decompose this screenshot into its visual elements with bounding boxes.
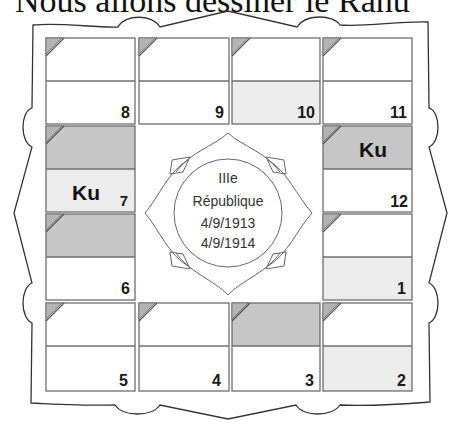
- planet-label: Ku: [359, 138, 387, 161]
- house-3: 3: [232, 303, 320, 391]
- house-number: 5: [119, 372, 128, 389]
- house-4-top: [139, 303, 229, 346]
- house-5: 5: [46, 303, 135, 391]
- center-line-1: IIIe: [218, 170, 238, 186]
- house-number: 9: [215, 104, 224, 121]
- house-number: 3: [305, 372, 314, 389]
- house-7: Ku 7: [46, 126, 135, 212]
- house-number: 10: [297, 104, 315, 121]
- house-7-top: [46, 126, 135, 169]
- house-number: 1: [397, 280, 406, 297]
- house-number: 7: [120, 192, 128, 209]
- house-11: 11: [323, 38, 412, 124]
- house-8: 8: [46, 38, 135, 124]
- horoscope-diagram: Nous allons dessiner le Rahu 8 9 10: [0, 0, 449, 431]
- center-line-3: 4/9/1913: [201, 215, 256, 231]
- page-title: Nous allons dessiner le Rahu: [15, 0, 410, 19]
- house-4: 4: [139, 303, 229, 391]
- house-11-top: [323, 38, 412, 81]
- house-9-top: [139, 38, 229, 81]
- center-line-4: 4/9/1914: [201, 235, 256, 251]
- house-1: 1: [323, 214, 412, 300]
- house-5-top: [46, 303, 135, 346]
- house-number: 11: [390, 104, 407, 121]
- house-number: 12: [390, 193, 408, 210]
- house-number: 8: [121, 104, 130, 121]
- center-lotus-emblem: IIIe République 4/9/1913 4/9/1914: [145, 133, 312, 295]
- house-9: 9: [139, 38, 229, 124]
- house-10-top: [232, 38, 320, 81]
- house-2-top: [323, 303, 412, 346]
- house-number: 2: [397, 372, 406, 389]
- house-6: 6: [46, 214, 135, 300]
- house-3-top: [232, 303, 320, 346]
- house-10: 10: [232, 38, 320, 124]
- house-6-top: [46, 214, 135, 257]
- house-1-top: [323, 214, 412, 257]
- house-number: 4: [212, 372, 221, 389]
- house-2: 2: [323, 303, 412, 391]
- planet-label: Ku: [72, 181, 100, 204]
- center-line-2: République: [193, 193, 264, 209]
- house-12: Ku 12: [323, 126, 412, 212]
- house-8-top: [46, 38, 135, 81]
- house-number: 6: [121, 280, 130, 297]
